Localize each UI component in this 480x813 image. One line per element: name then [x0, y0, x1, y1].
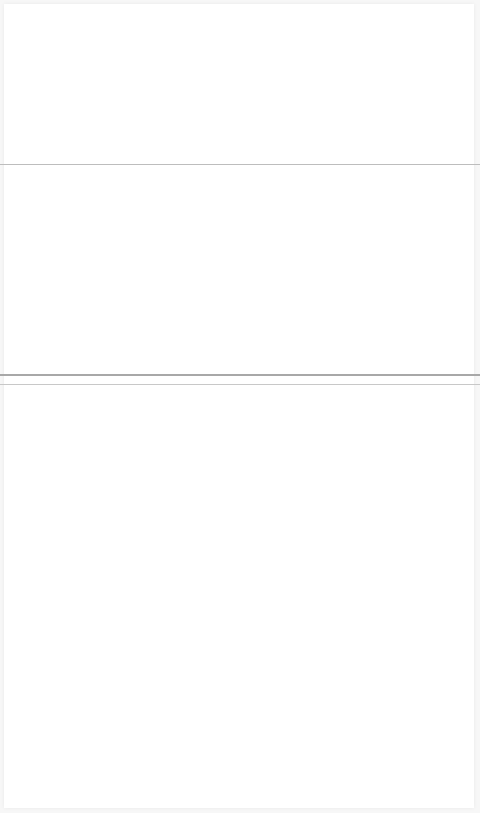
top-section — [4, 4, 474, 164]
divider-top — [0, 164, 480, 165]
blank-page — [4, 4, 474, 808]
divider-middle-thin — [0, 384, 480, 385]
bottom-section — [4, 385, 474, 808]
divider-middle-thick — [0, 374, 480, 376]
middle-section — [4, 165, 474, 375]
